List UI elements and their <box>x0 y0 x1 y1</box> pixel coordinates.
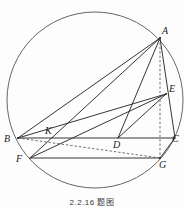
circumcircle <box>7 12 183 188</box>
point-label-K: K <box>45 126 52 136</box>
geometry-diagram-canvas <box>0 0 184 208</box>
figure-caption: 2.2.16 题图 <box>0 196 184 208</box>
vertex-dot-A <box>159 37 161 39</box>
point-label-A: A <box>162 26 168 36</box>
point-label-C: C <box>172 134 179 144</box>
segment-BG <box>18 138 160 158</box>
geometry-figure: A B C D E F G K 2.2.16 题图 <box>0 0 184 208</box>
segment-DE <box>118 94 166 138</box>
dashed-segments-group <box>18 38 160 158</box>
vertex-dots-group <box>17 37 167 159</box>
vertex-dot-E <box>165 93 167 95</box>
point-label-F: F <box>16 154 22 164</box>
point-label-G: G <box>159 160 166 170</box>
point-label-B: B <box>4 134 10 144</box>
segment-AF <box>30 38 160 158</box>
vertex-dot-B <box>17 137 19 139</box>
point-label-D: D <box>113 140 120 150</box>
solid-segments-group <box>18 38 175 158</box>
point-label-E: E <box>169 84 175 94</box>
